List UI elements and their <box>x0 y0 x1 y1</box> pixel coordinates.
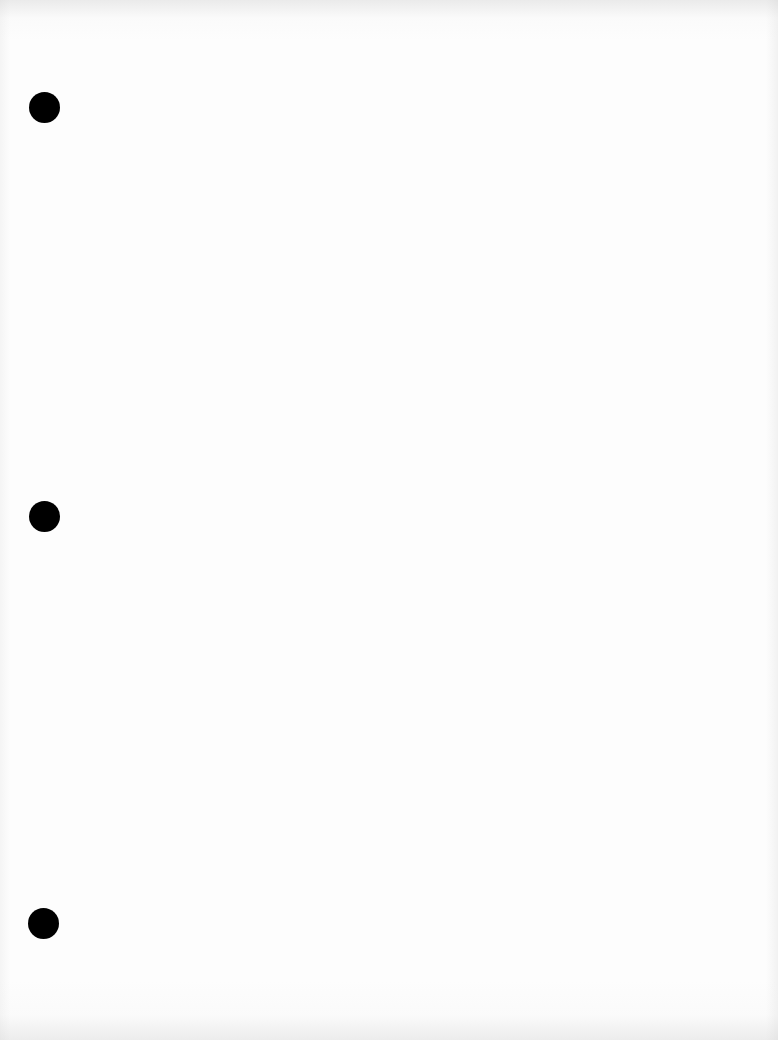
punch-hole-icon <box>28 908 59 939</box>
punch-hole-icon <box>29 501 60 532</box>
page-content-area <box>80 40 748 1000</box>
punch-hole-icon <box>29 92 60 123</box>
scanned-page <box>0 0 778 1040</box>
